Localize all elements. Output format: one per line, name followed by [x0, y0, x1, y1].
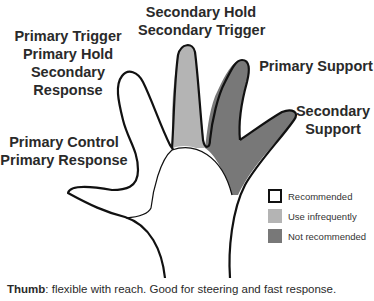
pinky-finger-label: Secondary Support: [288, 102, 374, 138]
swatch-not-recommended: [268, 229, 282, 243]
swatch-recommended: [268, 189, 282, 203]
pinky-label-line-1: Secondary: [288, 102, 374, 120]
legend-label-not-recommended: Not recommended: [288, 231, 366, 242]
caption-bold: Thumb: [7, 283, 45, 295]
ring-finger-label: Primary Support: [258, 57, 374, 75]
ring-label-line-1: Primary Support: [258, 57, 374, 75]
thumb-label-line-1: Primary Control: [0, 133, 128, 151]
thumb-label-line-2: Primary Response: [0, 151, 128, 169]
legend-label-recommended: Recommended: [288, 191, 352, 202]
swatch-use-infrequently: [268, 209, 282, 223]
index-finger-label: Primary Trigger Primary Hold Secondary R…: [8, 27, 128, 99]
middle-label-line-1: Secondary Hold: [138, 3, 264, 21]
legend-item-recommended: Recommended: [268, 186, 366, 206]
index-label-line-4: Response: [8, 81, 128, 99]
index-label-line-1: Primary Trigger: [8, 27, 128, 45]
legend-label-use-infrequently: Use infrequently: [288, 211, 357, 222]
middle-label-line-2: Secondary Trigger: [138, 21, 264, 39]
thumb-caption: Thumb: flexible with reach. Good for ste…: [7, 283, 336, 295]
index-label-line-3: Secondary: [8, 63, 128, 81]
thumb-label: Primary Control Primary Response: [0, 133, 128, 169]
index-label-line-2: Primary Hold: [8, 45, 128, 63]
legend: Recommended Use infrequently Not recomme…: [268, 186, 366, 246]
legend-item-not-recommended: Not recommended: [268, 226, 366, 246]
legend-item-use-infrequently: Use infrequently: [268, 206, 366, 226]
middle-finger-label: Secondary Hold Secondary Trigger: [138, 3, 264, 39]
caption-text: : flexible with reach. Good for steering…: [45, 283, 336, 295]
pinky-label-line-2: Support: [288, 120, 374, 138]
